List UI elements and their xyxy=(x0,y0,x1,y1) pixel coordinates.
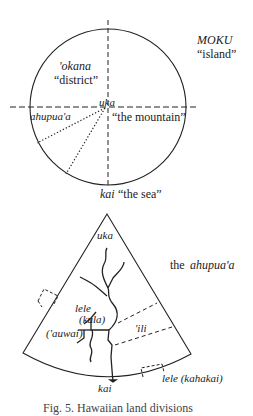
kula-label: (kula) xyxy=(79,314,105,325)
ili-label: 'ili xyxy=(135,323,147,334)
ahupuaa-title-prefix: the xyxy=(170,259,185,271)
ahupuaa-title: ahupua'a xyxy=(190,259,235,271)
okana-gloss: “district” xyxy=(54,74,98,86)
uka-label-bottom: uka xyxy=(97,230,113,241)
kai-label-top: kai xyxy=(100,188,115,200)
kai-label-bottom: kai xyxy=(98,383,111,394)
lele-kahakai-label: lele (kahakai) xyxy=(162,373,223,384)
okana-label: 'okana xyxy=(59,60,91,72)
moku-label: MOKU xyxy=(197,34,232,46)
figure-caption: Fig. 5. Hawaiian land divisions xyxy=(43,401,193,416)
ahupuaa-label-top: ahupua'a xyxy=(30,111,71,122)
sea-gloss: “the sea” xyxy=(118,188,162,200)
lele-kula-boundary xyxy=(38,289,58,306)
ahupuaa-boundary-2 xyxy=(66,108,105,174)
uka-label-top: uka xyxy=(99,97,115,108)
ili-boundary-1 xyxy=(118,303,157,323)
mountain-gloss: “the mountain” xyxy=(112,111,186,123)
auwai-label: ('auwai) xyxy=(46,328,83,339)
moku-gloss: “island” xyxy=(197,48,236,60)
